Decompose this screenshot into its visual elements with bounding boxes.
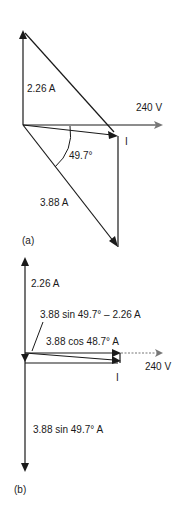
label-voltage-b: 240 V [145,361,171,372]
panel-a: 2.26 A 240 V I 49.7° 3.88 A (a) [19,30,163,247]
inductive-current-phasor [23,125,114,242]
leader-line [32,322,43,351]
reactive-arrowhead-icon [21,463,29,472]
panel-b: 2.26 A 3.88 sin 49.7° – 2.26 A 3.88 cos … [14,257,171,495]
label-resultant-current-b: I [116,372,119,383]
label-resultant-current: I [125,136,128,147]
caption-a: (a) [22,235,34,246]
label-capacitive-current-b: 2.26 A [31,278,60,289]
label-inductive-current: 3.88 A [40,197,69,208]
net-reactive-arrowhead-icon [21,354,29,362]
label-net-reactive: 3.88 sin 49.7° – 2.26 A [40,309,141,320]
label-voltage: 240 V [136,102,162,113]
label-angle: 49.7° [69,150,92,161]
label-reactive-component: 3.88 sin 49.7° A [33,424,103,435]
phasor-diagram: 2.26 A 240 V I 49.7° 3.88 A (a) 2.26 A [0,0,183,515]
resultant-current-phasor [23,125,112,135]
caption-b: (b) [14,484,26,495]
label-in-phase-component: 3.88 cos 48.7° A [46,336,119,347]
resultant-arrowhead-icon [108,131,118,139]
capacitive-arrowhead-icon-b [21,257,29,266]
resultant-current-phasor-b [25,353,114,360]
label-capacitive-current: 2.26 A [27,83,56,94]
